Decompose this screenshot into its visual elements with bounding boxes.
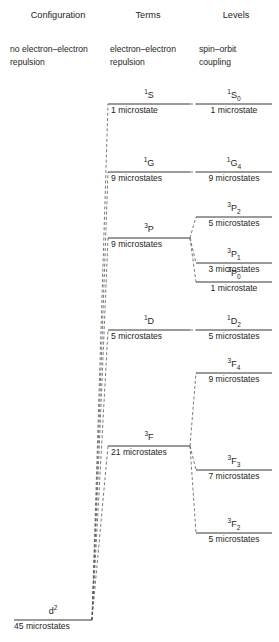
column-subheading-configuration-line2: repulsion <box>10 57 45 67</box>
level-j-3F4: 4 <box>237 364 241 371</box>
corr-line-d2-to-3P <box>92 238 108 620</box>
column-heading-configuration: Configuration <box>8 10 108 21</box>
column-subheading-levels-line1: spin–orbit <box>199 44 236 54</box>
column-subheading-levels-line2: coupling <box>199 57 231 67</box>
level-j-1G4: 4 <box>238 163 242 170</box>
column-heading-levels: Levels <box>196 10 276 21</box>
term-letter-3P: P <box>148 224 154 234</box>
level-symbol-3P1: 3P1 <box>196 249 272 260</box>
column-subheading-configuration-line1: no electron–electron <box>10 44 88 54</box>
term-symbol-1D: 1D <box>108 316 190 327</box>
level-microstates-1G4: 9 microstates <box>196 173 272 183</box>
term-microstates-1D: 5 microstates <box>111 331 162 341</box>
level-j-3P0: 0 <box>237 273 241 280</box>
level-j-3P1: 1 <box>237 254 241 261</box>
column-heading-terms: Terms <box>105 10 191 21</box>
column-subheading-terms-line1: electron–electron <box>110 44 176 54</box>
level-microstates-3P2: 5 microstates <box>196 218 272 228</box>
configuration-electron-count: 2 <box>54 604 58 611</box>
corr-line-d2-to-1G <box>92 172 108 620</box>
term-microstates-1S: 1 microstate <box>111 105 158 115</box>
level-microstates-3F4: 9 microstates <box>196 374 272 384</box>
level-symbol-1D2: 1D2 <box>196 316 272 327</box>
level-j-3F3: 3 <box>237 461 241 468</box>
term-microstates-1G: 9 microstates <box>111 173 162 183</box>
level-symbol-3F3: 3F3 <box>196 456 272 467</box>
term-letter-3F: F <box>148 432 154 442</box>
level-j-1D2: 2 <box>237 321 241 328</box>
level-j-1S0: 0 <box>237 95 241 102</box>
corr-line-d2-to-1S <box>92 104 108 620</box>
term-letter-1S: S <box>148 90 154 100</box>
level-microstates-3P0: 1 microstate <box>196 283 272 293</box>
level-symbol-3F4: 3F4 <box>196 359 272 370</box>
term-microstates-3F: 21 microstates <box>111 447 167 457</box>
corr-line-d2-to-1D <box>92 330 108 620</box>
level-symbol-1G4: 1G4 <box>196 158 272 169</box>
level-j-3P2: 2 <box>237 208 241 215</box>
level-symbol-3F2: 3F2 <box>196 519 272 530</box>
level-microstates-1D2: 5 microstates <box>196 331 272 341</box>
configuration-symbol-d2: d2 <box>14 606 92 617</box>
term-letter-1D: D <box>148 316 155 326</box>
level-symbol-1S0: 1S0 <box>196 90 272 101</box>
term-symbol-energy-diagram: Configuration Terms Levels no electron–e… <box>0 0 279 642</box>
level-microstates-3F3: 7 microstates <box>196 471 272 481</box>
level-letter-1G4: G <box>230 158 237 168</box>
configuration-microstates-d2: 45 microstates <box>14 621 70 631</box>
term-symbol-1S: 1S <box>108 90 190 101</box>
corr-line-d2-to-3F <box>92 446 108 620</box>
column-subheading-terms-line2: repulsion <box>110 57 145 67</box>
term-symbol-3F: 3F <box>108 432 190 443</box>
term-letter-1G: G <box>147 158 154 168</box>
level-microstates-1S0: 1 microstate <box>196 105 272 115</box>
level-symbol-3P2: 3P2 <box>196 203 272 214</box>
level-microstates-3F2: 5 microstates <box>196 534 272 544</box>
level-j-3F2: 2 <box>237 524 241 531</box>
term-microstates-3P: 9 microstates <box>111 239 162 249</box>
term-symbol-1G: 1G <box>108 158 190 169</box>
term-symbol-3P: 3P <box>108 224 190 235</box>
level-symbol-3P0: 3P0 <box>196 268 272 279</box>
